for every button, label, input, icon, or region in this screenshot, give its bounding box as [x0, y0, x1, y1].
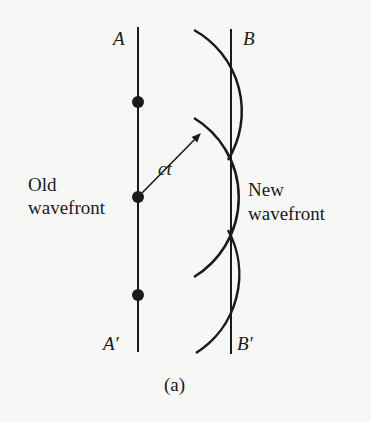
- label-ct: ct: [158, 158, 172, 180]
- wavelet-middle: [194, 118, 239, 277]
- diagram-canvas: A B A′ B′ ct Old wavefront New wavefront…: [0, 0, 371, 422]
- new-wavefront-label-line2: wavefront: [248, 203, 325, 225]
- new-wavefront-label-line1: New: [248, 179, 284, 201]
- wavelet-bottom: [196, 230, 239, 353]
- figure-caption: (a): [164, 374, 185, 396]
- label-b: B: [243, 28, 255, 50]
- old-wavefront-label-line1: Old: [28, 174, 57, 196]
- label-a-prime: A′: [103, 333, 119, 355]
- source-point-bottom: [132, 289, 144, 301]
- source-point-top: [132, 96, 144, 108]
- old-wavefront-label-line2: wavefront: [28, 197, 105, 219]
- label-a: A: [113, 28, 125, 50]
- label-b-prime: B′: [237, 333, 253, 355]
